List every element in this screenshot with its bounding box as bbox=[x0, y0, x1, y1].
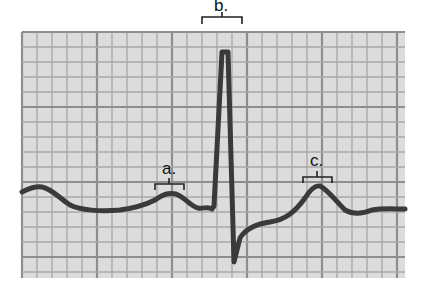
label-b: b. bbox=[214, 0, 228, 15]
label-c: c. bbox=[310, 151, 323, 170]
label-a: a. bbox=[162, 159, 176, 178]
ecg-diagram: a. b. c. bbox=[0, 0, 428, 300]
grid-paper bbox=[22, 32, 405, 278]
